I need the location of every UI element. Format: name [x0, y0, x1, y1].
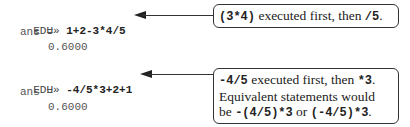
ans-label-1: ans = [20, 26, 53, 39]
result-value-2: 0.6000 [48, 101, 88, 114]
callout-line: (3*4) executed first, then /5. [219, 8, 393, 25]
callout-text: . [372, 72, 375, 87]
callout-text: executed first, then [255, 8, 365, 23]
callout-box-2: -4/5 executed first, then *3.Equivalent … [213, 68, 399, 124]
result-value-1: 0.6000 [48, 41, 88, 54]
callout-line: be -(4/5)*3 or (-4/5)*3. [219, 104, 393, 121]
callout-line: Equivalent statements would [219, 89, 393, 104]
command-text: -4/5*3+2+1 [66, 84, 132, 96]
code-snippet: -4/5 [219, 74, 248, 88]
code-snippet: (-4/5)*3 [311, 106, 369, 120]
code-snippet: (3*4) [219, 10, 255, 24]
command-text: 1+2-3*4/5 [66, 25, 125, 37]
callout-text: or [293, 104, 311, 119]
arrow-line [148, 74, 214, 75]
callout-text: Equivalent statements would [219, 89, 375, 104]
ans-label-2: ans = [20, 86, 53, 99]
callout-text: . [379, 8, 382, 23]
code-snippet: /5 [365, 10, 379, 24]
callout-text: executed first, then [248, 72, 358, 87]
arrow-line [142, 15, 215, 16]
callout-text: be [219, 104, 235, 119]
callout-text: . [368, 104, 371, 119]
code-snippet: *3 [358, 74, 372, 88]
callout-box-1: (3*4) executed first, then /5. [213, 4, 399, 28]
callout-line: -4/5 executed first, then *3. [219, 72, 393, 89]
code-snippet: -(4/5)*3 [235, 106, 293, 120]
